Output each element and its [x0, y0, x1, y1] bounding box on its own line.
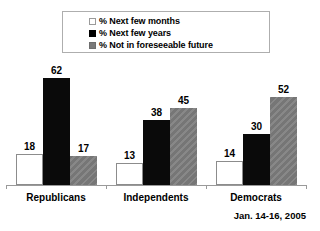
x-axis-tick-end	[306, 185, 307, 189]
bar-value-independents-next-few-months: 13	[116, 150, 143, 161]
bar-value-republicans-next-few-months: 18	[16, 141, 43, 152]
bar-democrats-next-few-years	[243, 134, 270, 185]
bar-independents-not-in-foreseeable-future	[170, 108, 197, 185]
bar-independents-next-few-years	[143, 120, 170, 185]
x-axis-label-democrats: Democrats	[206, 192, 306, 204]
x-axis-tick-1	[106, 185, 107, 189]
bar-republicans-next-few-months	[16, 154, 43, 185]
bar-republicans-not-in-foreseeable-future	[70, 156, 97, 185]
bar-republicans-next-few-years	[43, 78, 70, 185]
x-axis-label-independents: Independents	[106, 192, 206, 204]
bar-value-republicans-next-few-years: 62	[43, 65, 70, 76]
bar-value-democrats-not-in-foreseeable-future: 52	[270, 84, 297, 95]
x-axis-tick-start	[6, 185, 7, 189]
x-axis-line	[6, 185, 307, 186]
plot-area: 18 62 17 13 38 45 14 30 52 Republicans I…	[0, 0, 320, 231]
chart-footnote-date: Jan. 14-16, 2005	[234, 210, 306, 222]
bar-democrats-not-in-foreseeable-future	[270, 97, 297, 185]
x-axis-label-republicans: Republicans	[6, 192, 106, 204]
bar-democrats-next-few-months	[216, 161, 243, 185]
bar-independents-next-few-months	[116, 163, 143, 185]
bar-chart: % Next few months % Next few years % Not…	[0, 0, 320, 231]
x-axis-tick-2	[206, 185, 207, 189]
bar-value-republicans-not-in-foreseeable-future: 17	[70, 143, 97, 154]
bar-value-independents-not-in-foreseeable-future: 45	[170, 95, 197, 106]
bar-value-democrats-next-few-years: 30	[243, 121, 270, 132]
bar-value-independents-next-few-years: 38	[143, 107, 170, 118]
bar-value-democrats-next-few-months: 14	[216, 148, 243, 159]
